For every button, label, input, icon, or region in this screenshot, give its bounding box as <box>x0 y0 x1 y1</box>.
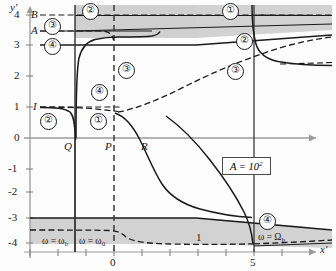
y-tick-1: 1 <box>14 100 20 112</box>
curve-branch-3-dashed <box>118 37 332 112</box>
asymptote-label-omega-b: ω = ωb <box>42 236 68 248</box>
x-axis-label: x' <box>320 243 327 255</box>
branch-marker-4-mid: ④ <box>91 84 108 101</box>
y-tick-neg3: -3 <box>8 211 17 223</box>
branch-marker-2-top: ② <box>82 3 99 20</box>
asymptote-label-omega-zero: ω = ω0 <box>79 236 105 248</box>
branch-marker-4-top: ④ <box>44 38 61 55</box>
branch-marker-2-right: ② <box>236 33 253 50</box>
point-label-R: R <box>141 140 148 152</box>
branch-marker-3-top: ③ <box>44 18 61 35</box>
level-label-B: B <box>31 8 38 20</box>
point-label-Q: Q <box>64 140 72 152</box>
level-label-I: I <box>33 100 37 112</box>
branch-marker-1-topright: ① <box>222 3 239 20</box>
y-tick-neg1: -1 <box>8 162 17 174</box>
branch-marker-4-bottom: ④ <box>259 213 276 230</box>
branch-marker-1-mid: ① <box>90 113 107 130</box>
level-label-A: A <box>31 24 38 36</box>
branch-marker-3-right: ③ <box>227 63 244 80</box>
y-tick-3: 3 <box>14 38 20 50</box>
x-axis-bottom-rule <box>24 249 316 256</box>
branch-marker-3-mid: ③ <box>118 62 135 79</box>
x-tick-1: 1 <box>196 231 202 243</box>
x-tick-5: 5 <box>250 256 256 268</box>
asymptote-label-omega-big-b: ω = Ωb <box>258 232 285 244</box>
y-tick-neg2: -2 <box>8 185 17 197</box>
annotation-box-A: A = 102 <box>222 157 271 175</box>
y-tick-neg4: -4 <box>8 236 17 248</box>
point-label-P: P <box>105 140 112 152</box>
y-tick-0: 0 <box>14 131 20 143</box>
x-tick-0: 0 <box>110 256 116 268</box>
y-tick-2: 2 <box>14 69 20 81</box>
y-tick-4: 4 <box>14 8 20 20</box>
dispersion-figure: y' x' 4 3 2 1 0 -1 -2 -3 -4 0 1 5 B A I … <box>0 0 336 271</box>
branch-marker-2-left: ② <box>40 113 57 130</box>
